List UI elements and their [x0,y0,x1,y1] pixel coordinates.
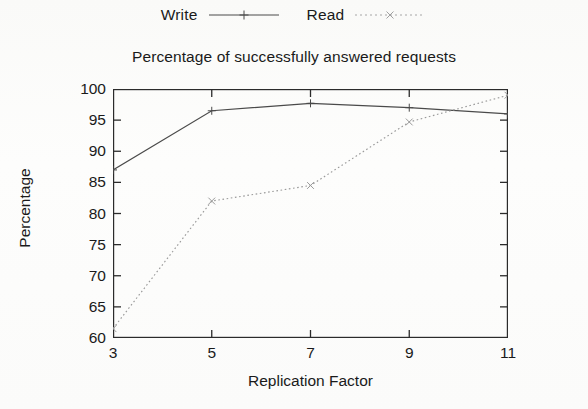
x-tick-label: 9 [405,344,414,362]
x-tick-label: 3 [109,344,118,362]
x-tick-label: 11 [500,344,516,362]
x-tick-label: 7 [306,344,315,362]
plot-area [113,89,508,338]
x-tick-label: 5 [207,344,216,362]
plot-canvas [113,89,508,338]
chart-page: Write Read Percentage of successfully a [0,0,588,409]
